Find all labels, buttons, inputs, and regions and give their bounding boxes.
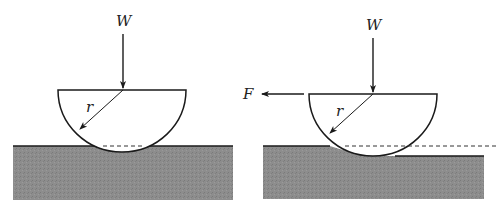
hemisphere-slider: [58, 90, 186, 152]
force-label: F: [242, 85, 254, 103]
load-label: W: [366, 16, 383, 34]
left-panel: W r: [13, 12, 233, 200]
radius-label: r: [336, 102, 344, 120]
load-label: W: [116, 12, 133, 30]
diagram-canvas: W r W F r: [0, 0, 502, 217]
radius-label: r: [86, 98, 94, 116]
right-panel: W F r: [242, 16, 497, 199]
substrate-block: [13, 146, 233, 200]
